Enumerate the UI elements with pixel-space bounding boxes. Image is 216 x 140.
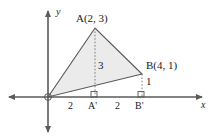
point-a-label: A(2, 3) bbox=[76, 13, 108, 24]
altitude-b-length-label: 1 bbox=[146, 76, 152, 87]
foot-a-prime-label: A' bbox=[88, 101, 97, 111]
y-axis-label: y bbox=[56, 7, 60, 17]
segment-a-prime-b-prime-label: 2 bbox=[115, 101, 120, 111]
coordinate-figure: y x A(2, 3) B(4, 1) 3 1 2 A' 2 B' bbox=[0, 0, 216, 140]
segment-o-a-prime-label: 2 bbox=[68, 101, 73, 111]
altitude-a-length-label: 3 bbox=[98, 60, 104, 71]
point-b-label: B(4, 1) bbox=[146, 60, 177, 71]
figure-canvas bbox=[0, 0, 216, 140]
foot-b-prime-label: B' bbox=[135, 101, 143, 111]
right-angle-marker-a-prime bbox=[91, 92, 97, 98]
x-axis-label: x bbox=[201, 100, 205, 110]
right-angle-marker-b-prime bbox=[138, 92, 144, 98]
